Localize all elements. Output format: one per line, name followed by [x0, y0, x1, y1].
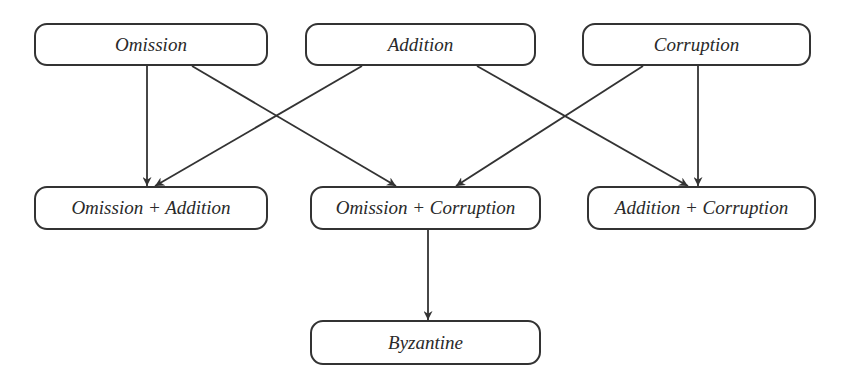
node-byzantine: Byzantine [310, 320, 541, 365]
node-label: Addition + Corruption [615, 197, 788, 219]
node-addition-corruption: Addition + Corruption [587, 186, 816, 230]
node-label: Omission [115, 34, 187, 56]
node-label: Corruption [654, 34, 740, 56]
node-label: Omission + Corruption [336, 197, 516, 219]
node-corruption: Corruption [582, 23, 811, 66]
node-omission-addition: Omission + Addition [34, 186, 268, 230]
node-omission: Omission [34, 23, 268, 66]
diagram-canvas: Omission Addition Corruption Omission + … [0, 0, 846, 379]
arrow-corruption-to-omission-corruption [456, 66, 643, 186]
node-label: Byzantine [388, 332, 463, 354]
node-label: Omission + Addition [71, 197, 230, 219]
arrow-omission-to-omission-corruption [192, 66, 396, 186]
node-omission-corruption: Omission + Corruption [310, 186, 541, 230]
arrow-addition-to-omission-addition [155, 66, 362, 186]
arrow-addition-to-addition-corruption [477, 66, 688, 186]
node-addition: Addition [305, 23, 536, 66]
node-label: Addition [388, 34, 453, 56]
